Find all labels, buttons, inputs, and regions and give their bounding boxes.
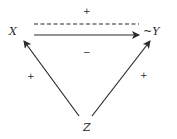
node-x: X [8,25,18,38]
node-not-y: ~Y [143,25,161,38]
sign-plus-z-x: + [27,71,35,81]
sign-plus-dashed: + [83,6,91,16]
causal-diagram: X ~Y Z + − + + [0,0,177,139]
sign-minus-solid: − [83,47,91,57]
node-z: Z [82,121,91,134]
sign-plus-z-y: + [140,70,148,80]
